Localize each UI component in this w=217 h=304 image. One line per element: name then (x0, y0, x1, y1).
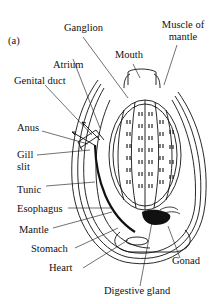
leader-muscle (164, 45, 177, 85)
label-tunic: Tunic (17, 184, 41, 195)
leader-mouth (133, 64, 140, 78)
leader-tunic (46, 182, 95, 186)
leader-genital-duct (45, 85, 92, 135)
label-gill-slit-1: Gill (17, 149, 33, 160)
heart-shape (126, 237, 148, 245)
label-genital-duct: Genital duct (14, 75, 66, 86)
panel-label: (a) (8, 35, 20, 46)
leader-heart (83, 240, 128, 268)
label-esophagus: Esophagus (17, 203, 63, 214)
leader-mantle (53, 212, 112, 228)
label-muscle-of-mantle-2: mantle (154, 31, 212, 42)
leader-ganglion (83, 37, 128, 98)
label-atrium: Atrium (53, 59, 83, 70)
tunicate-anatomy-diagram: (a) Ganglion Muscle of mantle Mouth Atri… (0, 0, 217, 304)
oral-siphon (128, 69, 156, 85)
label-mouth: Mouth (115, 49, 143, 60)
label-gill-slit-2: slit (17, 161, 30, 172)
label-anus: Anus (17, 122, 39, 133)
label-stomach: Stomach (31, 243, 68, 254)
label-heart: Heart (49, 262, 72, 273)
label-gonad: Gonad (172, 255, 200, 266)
intestine (95, 145, 135, 232)
label-muscle-of-mantle-1: Muscle of (154, 19, 212, 30)
label-digestive-gland: Digestive gland (104, 285, 170, 296)
leader-digestive-gland (140, 222, 152, 286)
label-mantle: Mantle (19, 224, 49, 235)
leader-gonad (168, 226, 180, 258)
label-ganglion: Ganglion (64, 22, 103, 33)
leader-gill-slit (37, 150, 90, 155)
